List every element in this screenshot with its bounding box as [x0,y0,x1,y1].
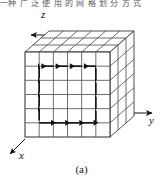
y-axis-label: y [148,114,154,126]
cube-grid-diagram: z y x [0,0,163,184]
figure-caption: (a) [0,163,163,175]
figure-container: 一种 广 泛 使 用 的 网 格 划 分 方 式 z y [0,0,163,184]
x-axis-label: x [18,149,24,161]
z-axis-label: z [40,8,46,20]
